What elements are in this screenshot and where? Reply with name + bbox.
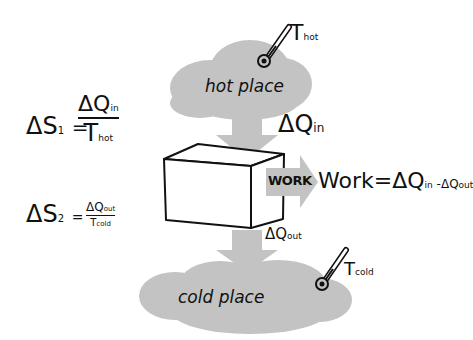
work-equation: Work=ΔQin -ΔQout — [318, 168, 473, 193]
entropy1-fraction: ΔQin Thot — [78, 93, 119, 145]
entropy2-lhs: ΔS2 = — [26, 200, 83, 228]
cold-place-label: cold place — [178, 287, 264, 307]
work-arrow-label: WORK — [268, 173, 311, 188]
fraction-bar — [86, 215, 115, 216]
hot-place-label: hot place — [205, 76, 284, 96]
entropy2-fraction: ΔQout Tcold — [86, 201, 115, 228]
heat-in-label: ΔQin — [278, 110, 324, 138]
heat-out-label: ΔQout — [265, 225, 302, 243]
t-cold-label: Tcold — [344, 258, 374, 279]
t-hot-label: Thot — [290, 20, 318, 45]
